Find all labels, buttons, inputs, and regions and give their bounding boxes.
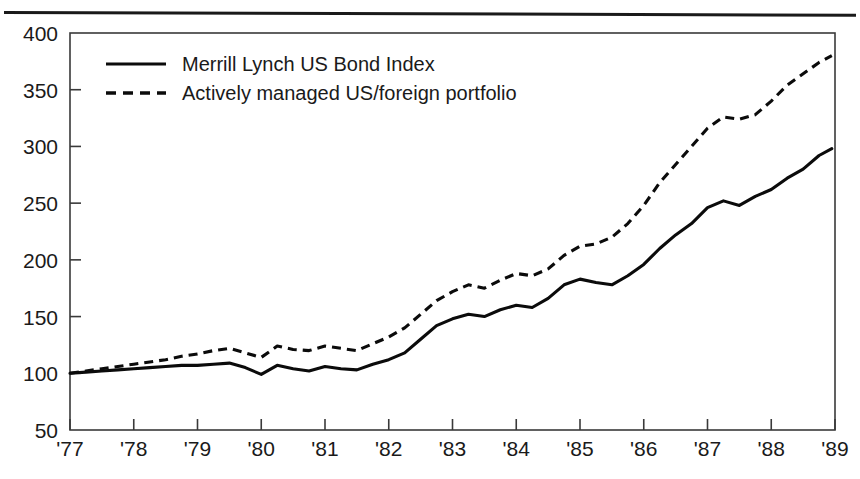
legend-label-0: Merrill Lynch US Bond Index: [182, 53, 435, 75]
y-tick-label-100: 100: [23, 362, 58, 385]
x-tick-label-1988: '88: [758, 437, 785, 460]
y-tick-label-150: 150: [23, 306, 58, 329]
y-tick-label-200: 200: [23, 249, 58, 272]
x-tick-label-1985: '85: [566, 437, 593, 460]
line-chart-svg: 50100150200250300350400 '77'78'79'80'81'…: [0, 0, 860, 479]
y-axis-ticks: [70, 90, 81, 374]
legend-label-1: Actively managed US/foreign portfolio: [182, 82, 517, 104]
x-tick-label-1980: '80: [248, 437, 275, 460]
x-tick-label-1986: '86: [630, 437, 657, 460]
x-tick-label-1983: '83: [439, 437, 466, 460]
y-tick-label-300: 300: [23, 135, 58, 158]
chart-plot-area: 50100150200250300350400 '77'78'79'80'81'…: [0, 0, 860, 479]
y-tick-label-50: 50: [35, 419, 58, 442]
x-tick-label-1977: '77: [56, 437, 83, 460]
x-axis-ticks: [70, 419, 835, 430]
chart-legend: Merrill Lynch US Bond Index Actively man…: [106, 53, 517, 104]
x-tick-label-1984: '84: [503, 437, 531, 460]
figure-container: 50100150200250300350400 '77'78'79'80'81'…: [0, 0, 860, 479]
x-tick-label-1987: '87: [694, 437, 721, 460]
x-tick-label-1981: '81: [311, 437, 338, 460]
x-tick-label-1989: '89: [821, 437, 848, 460]
y-tick-label-250: 250: [23, 192, 58, 215]
y-tick-label-350: 350: [23, 79, 58, 102]
x-axis-tick-labels: '77'78'79'80'81'82'83'84'85'86'87'88'89: [56, 437, 848, 460]
x-tick-label-1982: '82: [375, 437, 402, 460]
y-tick-label-400: 400: [23, 22, 58, 45]
x-tick-label-1979: '79: [184, 437, 211, 460]
y-axis-tick-labels: 50100150200250300350400: [23, 22, 58, 442]
x-tick-label-1978: '78: [120, 437, 147, 460]
series-line-merrill-lynch-us-bond-index: [70, 149, 832, 375]
